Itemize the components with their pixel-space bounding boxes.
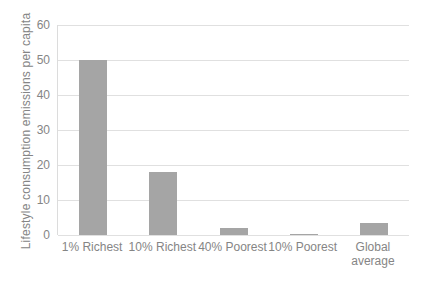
- y-tick-label: 30: [16, 123, 50, 137]
- plot-area: [57, 25, 409, 235]
- bar: [149, 172, 177, 235]
- bar: [220, 228, 248, 235]
- gridline: [58, 235, 409, 236]
- y-tick-label: 20: [16, 158, 50, 172]
- y-tick-label: 10: [16, 193, 50, 207]
- bar-chart: Lifestyle consumption emissions per capi…: [0, 0, 431, 284]
- gridline: [58, 165, 409, 166]
- bar: [290, 234, 318, 235]
- bar: [360, 223, 388, 235]
- y-tick-label: 50: [16, 53, 50, 67]
- gridline: [58, 95, 409, 96]
- gridline: [58, 130, 409, 131]
- gridline: [58, 60, 409, 61]
- bar: [79, 60, 107, 235]
- y-tick-label: 60: [16, 18, 50, 32]
- x-category-label: Global average: [342, 240, 404, 268]
- gridline: [58, 25, 409, 26]
- y-tick-label: 0: [16, 228, 50, 242]
- x-category-label: 10% Poorest: [258, 240, 348, 254]
- gridline: [58, 200, 409, 201]
- y-tick-label: 40: [16, 88, 50, 102]
